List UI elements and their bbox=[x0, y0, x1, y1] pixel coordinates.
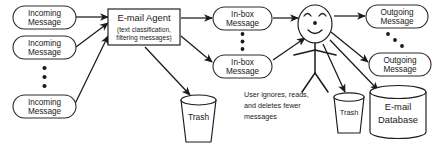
outgoing-ellipsis bbox=[386, 32, 404, 48]
outgoing-message-first-line1: Outgoing bbox=[380, 8, 414, 17]
inbox-message-last-line1: In-box bbox=[231, 58, 254, 67]
incoming-message-first-line1: Incoming bbox=[28, 9, 62, 18]
arrow-incoming-n-to-agent bbox=[72, 36, 108, 110]
incoming-message-second-line2: Message bbox=[28, 48, 62, 57]
diagram-canvas: Incoming Message Incoming Message Incomi… bbox=[0, 0, 441, 164]
trash-agent-node: Trash bbox=[181, 95, 216, 142]
arrow-incoming-2-to-agent bbox=[76, 23, 108, 47]
arrow-agent-to-trash bbox=[145, 47, 190, 95]
user-note-line2: and deletes fewer bbox=[244, 101, 301, 110]
outgoing-ellipsis-dot-3 bbox=[400, 44, 404, 48]
email-database-top bbox=[370, 86, 426, 99]
inbox-ellipsis-dot-2 bbox=[241, 40, 245, 44]
user-arm-left bbox=[294, 50, 315, 55]
trash-user-label: Trash bbox=[340, 108, 359, 117]
incoming-message-last-line1: Incoming bbox=[28, 98, 62, 107]
incoming-ellipsis-dot-1 bbox=[42, 66, 46, 70]
outgoing-ellipsis-dot-1 bbox=[386, 32, 390, 36]
inbox-message-first: In-box Message bbox=[213, 7, 272, 30]
inbox-message-last-line2: Message bbox=[226, 67, 260, 76]
incoming-message-last-line2: Message bbox=[28, 107, 62, 116]
outgoing-message-last-line1: Outgoing bbox=[383, 56, 417, 65]
email-database-line2: Database bbox=[378, 114, 418, 125]
outgoing-message-last: Outgoing Message bbox=[369, 53, 431, 76]
arrow-agent-to-inbox-last bbox=[181, 36, 212, 62]
incoming-ellipsis bbox=[42, 66, 46, 88]
outgoing-message-first: Outgoing Message bbox=[366, 5, 428, 28]
arrow-user-to-trash bbox=[323, 44, 345, 92]
inbox-message-last: In-box Message bbox=[213, 55, 272, 78]
outgoing-ellipsis-dot-2 bbox=[393, 38, 397, 42]
outgoing-message-last-line2: Message bbox=[383, 65, 417, 74]
incoming-message-second: Incoming Message bbox=[13, 36, 76, 59]
inbox-message-first-line2: Message bbox=[226, 19, 260, 28]
email-agent-subtitle-line1: (text classification, bbox=[117, 26, 171, 34]
user-note: User ignores, reads, and deletes fewer m… bbox=[244, 90, 309, 121]
email-agent-node: E-mail Agent (text classification, filte… bbox=[108, 9, 180, 45]
email-database-line1: E-mail bbox=[385, 101, 412, 112]
inbox-ellipsis-dot-1 bbox=[241, 32, 245, 36]
trash-agent-label: Trash bbox=[188, 112, 209, 122]
user-leg-right bbox=[315, 73, 328, 92]
incoming-message-second-line1: Incoming bbox=[28, 39, 62, 48]
outgoing-message-first-line2: Message bbox=[380, 17, 414, 26]
user-figure bbox=[294, 5, 336, 92]
incoming-message-first: Incoming Message bbox=[13, 6, 76, 29]
inbox-message-first-line1: In-box bbox=[231, 10, 254, 19]
inbox-ellipsis bbox=[241, 32, 245, 51]
trash-agent-rim bbox=[181, 95, 216, 105]
trash-user-rim bbox=[334, 93, 364, 101]
inbox-ellipsis-dot-3 bbox=[241, 47, 245, 51]
email-agent-title: E-mail Agent bbox=[117, 12, 171, 23]
email-agent-diagram: Incoming Message Incoming Message Incomi… bbox=[0, 0, 441, 164]
arrow-inbox-last-to-user bbox=[273, 38, 305, 60]
user-note-line1: User ignores, reads, bbox=[244, 90, 309, 99]
incoming-ellipsis-dot-2 bbox=[42, 75, 46, 79]
email-database-node: E-mail Database bbox=[370, 86, 426, 139]
email-agent-subtitle-line2: filtering messages) bbox=[116, 34, 171, 42]
incoming-ellipsis-dot-3 bbox=[42, 84, 46, 88]
incoming-message-last: Incoming Message bbox=[13, 95, 76, 118]
user-note-line3: messages bbox=[244, 112, 277, 121]
incoming-message-first-line2: Message bbox=[28, 18, 62, 27]
user-nose-icon bbox=[313, 21, 317, 25]
trash-user-node: Trash bbox=[334, 93, 364, 133]
arrows-incoming-to-agent bbox=[72, 17, 108, 110]
